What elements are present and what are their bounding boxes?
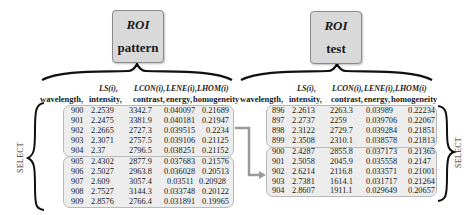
header-lcon: LCON(i), <box>134 84 165 93</box>
header-ls: LS(i), <box>99 84 118 93</box>
match-connector <box>235 128 260 175</box>
pattern-select-brace <box>28 103 44 210</box>
roi-test-box: ROI test <box>310 11 362 64</box>
header-wavelength: wavelength, <box>240 94 283 104</box>
test-select-brace <box>438 106 454 201</box>
header-ls: LS(i), <box>297 84 316 93</box>
roi-label: ROI <box>311 18 361 34</box>
header-intensity: intensity, <box>289 94 322 104</box>
header-lhom: LHOM(i) <box>197 84 229 93</box>
header-lhom: LHOM(i) <box>395 84 427 93</box>
header-lene: LENE(i), <box>364 84 395 93</box>
pattern-select-label: SELECT <box>16 140 25 176</box>
roi-name: pattern <box>113 40 163 56</box>
header-contrast: contrast, <box>331 94 363 104</box>
roi-pattern-box: ROI pattern <box>112 10 164 63</box>
header-energy: energy, <box>166 94 192 104</box>
header-energy: energy, <box>364 94 390 104</box>
header-homogeneity: homogeneity <box>193 94 239 104</box>
header-lcon: LCON(i), <box>332 84 363 93</box>
header-wavelength: wavelength, <box>40 94 83 104</box>
header-lene: LENE(i), <box>166 84 197 93</box>
arrowhead-icon <box>259 171 266 179</box>
test-select-label: SELECT <box>454 135 463 171</box>
roi-label: ROI <box>113 17 163 33</box>
header-intensity: intensity, <box>89 94 122 104</box>
test-brace <box>241 64 432 80</box>
header-homogeneity: homogeneity <box>391 94 437 104</box>
header-contrast: contrast, <box>133 94 165 104</box>
roi-name: test <box>311 41 361 57</box>
pattern-brace <box>42 64 232 80</box>
